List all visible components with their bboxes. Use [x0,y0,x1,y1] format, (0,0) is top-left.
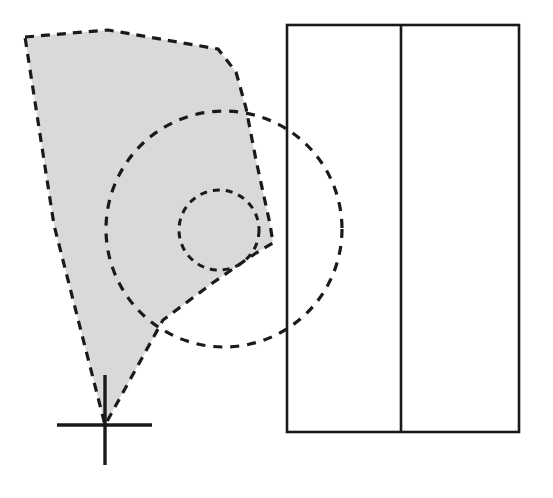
diagram-root [0,0,553,498]
diagram-canvas [0,0,553,498]
